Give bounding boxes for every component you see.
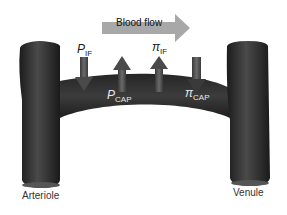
arteriole-label: Arteriole bbox=[22, 190, 59, 201]
pi-cap-label: πCAP bbox=[185, 86, 210, 100]
pi-if-label: πIF bbox=[152, 40, 167, 54]
p-cap-subscript: CAP bbox=[115, 95, 131, 104]
p-if-label: PIF bbox=[77, 42, 92, 56]
pi-if-subscript: IF bbox=[160, 47, 167, 56]
p-if-subscript: IF bbox=[85, 49, 92, 58]
p-cap-symbol: P bbox=[107, 88, 115, 102]
capillary-diagram bbox=[0, 0, 287, 215]
pi-if-symbol: π bbox=[152, 40, 160, 54]
p-if-symbol: P bbox=[77, 42, 85, 56]
venule-vessel bbox=[227, 41, 270, 186]
p-cap-label: PCAP bbox=[107, 88, 131, 102]
arteriole-vessel bbox=[19, 41, 60, 188]
pi-cap-symbol: π bbox=[185, 86, 193, 100]
venule-label: Venule bbox=[233, 187, 264, 198]
blood-flow-label: Blood flow bbox=[116, 17, 162, 28]
pi-cap-subscript: CAP bbox=[193, 93, 209, 102]
